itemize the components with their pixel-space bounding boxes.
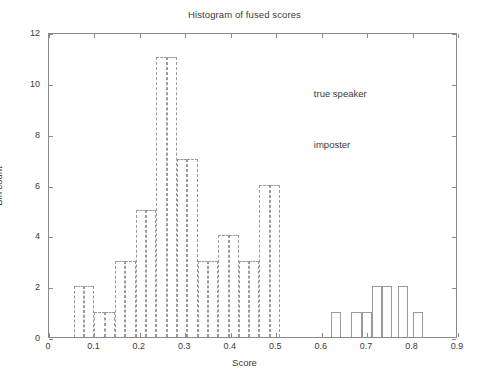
x-axis-tick xyxy=(140,34,141,38)
x-axis-tick xyxy=(49,333,50,337)
x-axis-tick-label: 0.4 xyxy=(224,341,237,351)
y-axis-tick xyxy=(49,85,53,86)
histogram-bar-imposter xyxy=(125,261,135,337)
y-axis-tick xyxy=(49,288,53,289)
histogram-figure: Histogram of fused scores Bin count Scor… xyxy=(0,0,489,392)
histogram-bar-imposter xyxy=(84,286,94,337)
x-axis-tick xyxy=(94,34,95,38)
histogram-bar-imposter xyxy=(74,286,84,337)
plot-area xyxy=(48,33,457,338)
histogram-bar-true-speaker xyxy=(362,312,372,337)
histogram-bar-imposter xyxy=(208,261,218,337)
plot-inner xyxy=(49,34,456,337)
x-axis-tick-label: 0.1 xyxy=(87,341,100,351)
histogram-bar-imposter xyxy=(94,312,104,337)
y-axis-tick xyxy=(452,288,456,289)
histogram-bar-imposter xyxy=(167,57,177,337)
x-axis-title: Score xyxy=(0,357,489,368)
y-axis-tick xyxy=(452,237,456,238)
x-axis-tick xyxy=(367,34,368,38)
y-axis-tick xyxy=(452,34,456,35)
y-axis-tick xyxy=(49,34,53,35)
x-axis-tick xyxy=(458,34,459,38)
x-axis-tick-label: 0.3 xyxy=(178,341,191,351)
histogram-bar-true-speaker xyxy=(331,312,341,337)
histogram-bar-imposter xyxy=(270,185,280,338)
x-axis-tick-label: 0.7 xyxy=(360,341,373,351)
y-axis-tick xyxy=(452,187,456,188)
y-axis-tick-label: 4 xyxy=(0,231,40,241)
annotation-imposter: imposter xyxy=(314,139,350,150)
histogram-bar-imposter xyxy=(146,210,156,337)
annotation-true-speaker: true speaker xyxy=(314,88,367,99)
x-axis-tick xyxy=(231,34,232,38)
histogram-bar-imposter xyxy=(198,261,208,337)
y-axis-tick xyxy=(452,136,456,137)
y-axis-tick-label: 2 xyxy=(0,282,40,292)
x-axis-tick xyxy=(458,333,459,337)
histogram-bar-imposter xyxy=(187,159,197,337)
page-title: Histogram of fused scores xyxy=(0,9,489,20)
y-axis-tick-label: 0 xyxy=(0,333,40,343)
x-axis-tick xyxy=(413,34,414,38)
x-axis-tick-label: 0.9 xyxy=(451,341,464,351)
histogram-bar-imposter xyxy=(249,261,259,337)
histogram-bar-imposter xyxy=(177,159,187,337)
x-axis-tick xyxy=(276,34,277,38)
histogram-bar-true-speaker xyxy=(382,286,392,337)
histogram-bar-imposter xyxy=(136,210,146,337)
x-axis-tick-label: 0.8 xyxy=(405,341,418,351)
y-axis-tick xyxy=(49,187,53,188)
y-axis-tick-label: 12 xyxy=(0,28,40,38)
x-axis-tick xyxy=(322,333,323,337)
histogram-bar-imposter xyxy=(115,261,125,337)
x-axis-tick xyxy=(322,34,323,38)
y-axis-tick-label: 8 xyxy=(0,130,40,140)
x-axis-tick-label: 0.5 xyxy=(269,341,282,351)
histogram-bar-imposter xyxy=(218,235,228,337)
y-axis-tick xyxy=(49,237,53,238)
x-axis-tick-label: 0.2 xyxy=(133,341,146,351)
histogram-bar-true-speaker xyxy=(372,286,382,337)
histogram-bar-imposter xyxy=(156,57,166,337)
y-axis-tick xyxy=(452,339,456,340)
y-axis-tick xyxy=(49,136,53,137)
histogram-bar-imposter xyxy=(229,235,239,337)
y-axis-tick-label: 10 xyxy=(0,79,40,89)
histogram-bar-true-speaker xyxy=(398,286,408,337)
x-axis-tick-label: 0.6 xyxy=(314,341,327,351)
x-axis-tick-label: 0 xyxy=(45,341,50,351)
y-axis-tick xyxy=(452,85,456,86)
histogram-bar-imposter xyxy=(239,261,249,337)
x-axis-tick xyxy=(185,34,186,38)
histogram-bar-imposter xyxy=(259,185,269,338)
y-axis-tick-label: 6 xyxy=(0,181,40,191)
y-axis-tick xyxy=(49,339,53,340)
histogram-bar-imposter xyxy=(105,312,115,337)
histogram-bar-true-speaker xyxy=(413,312,423,337)
histogram-bar-true-speaker xyxy=(351,312,361,337)
